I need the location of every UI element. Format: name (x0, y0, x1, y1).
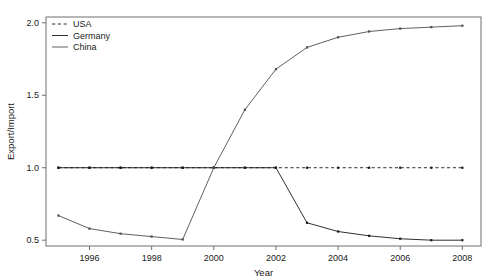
data-point (337, 36, 339, 38)
y-tick-label: 0.5 (26, 235, 39, 245)
data-point (461, 167, 463, 169)
x-tick-label: 2000 (204, 253, 224, 263)
line-chart: 0.51.01.52.0 199619982000200220042006200… (0, 0, 497, 280)
data-point (306, 46, 308, 48)
data-point (57, 167, 59, 169)
data-point (306, 167, 308, 169)
legend-label-usa: USA (73, 19, 92, 29)
data-point (399, 27, 401, 29)
series-china (57, 25, 463, 241)
data-point (430, 26, 432, 28)
series-line-china (58, 26, 462, 240)
x-tick-label: 1996 (79, 253, 99, 263)
data-point (461, 239, 463, 241)
x-axis: 1996199820002002200420062008 (79, 246, 472, 263)
x-tick-label: 2002 (266, 253, 286, 263)
x-tick-label: 2008 (452, 253, 472, 263)
y-tick-label: 2.0 (26, 18, 39, 28)
x-tick-label: 2006 (390, 253, 410, 263)
series-line-germany (58, 168, 462, 240)
x-tick-label: 1998 (142, 253, 162, 263)
data-point (337, 230, 339, 232)
legend-label-germany: Germany (73, 31, 111, 41)
y-tick-label: 1.0 (26, 163, 39, 173)
data-point (119, 233, 121, 235)
data-point (368, 167, 370, 169)
y-axis: 0.51.01.52.0 (26, 18, 46, 245)
data-point (275, 167, 277, 169)
y-axis-title: Export/Import (5, 103, 16, 160)
data-point (151, 167, 153, 169)
data-point (368, 235, 370, 237)
data-point (399, 167, 401, 169)
data-point (88, 228, 90, 230)
data-point (213, 167, 215, 169)
data-point (119, 167, 121, 169)
chart-container: 0.51.01.52.0 199619982000200220042006200… (0, 0, 497, 280)
x-tick-label: 2004 (328, 253, 348, 263)
data-point (57, 214, 59, 216)
data-point (461, 25, 463, 27)
chart-legend: USAGermanyChina (52, 19, 111, 52)
plot-frame-rect (46, 17, 481, 246)
data-point (88, 167, 90, 169)
series-germany (57, 167, 463, 242)
data-point (151, 235, 153, 237)
x-axis-title: Year (254, 267, 273, 278)
data-point (182, 167, 184, 169)
data-point (275, 68, 277, 70)
data-point (182, 238, 184, 240)
data-point (306, 222, 308, 224)
legend-label-china: China (73, 42, 97, 52)
data-point (430, 167, 432, 169)
plot-frame (46, 17, 481, 246)
data-series-group (57, 25, 463, 242)
data-point (399, 238, 401, 240)
y-tick-label: 1.5 (26, 90, 39, 100)
data-point (337, 167, 339, 169)
data-point (244, 167, 246, 169)
data-point (368, 30, 370, 32)
data-point (430, 239, 432, 241)
data-point (244, 109, 246, 111)
